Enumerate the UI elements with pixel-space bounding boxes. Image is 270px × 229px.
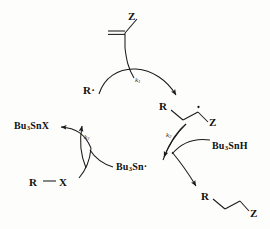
arrow-to-product: [172, 152, 196, 186]
label-tin-radical: Bu3Sn·: [116, 161, 147, 172]
label-rate-constant-k1: k1: [135, 76, 141, 84]
adduct-bond-3: [198, 112, 208, 122]
label-rate-constant-k2: k2: [166, 131, 172, 139]
label-alkyl-radical: R·: [83, 84, 95, 96]
k3-text: k3: [84, 133, 90, 141]
arrow-rx-in: [79, 148, 91, 178]
k1-text: k1: [135, 76, 141, 84]
label-substrate-r: R: [29, 176, 37, 188]
label-product-r: R: [201, 190, 209, 202]
arc-cycle-bottom-left: [90, 150, 113, 167]
label-substrate-x: X: [59, 176, 67, 188]
label-adduct-z: Z: [209, 116, 217, 128]
product-bond-1: [213, 199, 225, 209]
alkene-structure: [108, 19, 137, 48]
adduct-radical-dot: [197, 106, 199, 108]
alkene-feed-arrow: [125, 48, 134, 78]
adduct-bond-2: [183, 112, 198, 120]
diagram-drawing-layer: adduct radical ===== --> down, part of c…: [0, 0, 270, 229]
label-adduct-r: R: [159, 100, 167, 112]
label-tin-hydride-text: Bu3SnH: [212, 140, 248, 151]
adduct-radical-structure: [171, 110, 208, 122]
reaction-mechanism-diagram: adduct radical ===== --> down, part of c…: [0, 0, 270, 229]
label-alkene-z: Z: [128, 10, 136, 22]
label-tin-halide-text: Bu3SnX: [14, 120, 49, 131]
label-tin-halide: Bu3SnX: [14, 120, 49, 131]
label-rate-constant-k3: k3: [84, 133, 90, 141]
label-tin-radical-text: Bu3Sn·: [116, 161, 147, 172]
arrow-bu3snh-in: [172, 140, 210, 154]
arrow-to-tin-radical: [164, 124, 186, 157]
label-tin-hydride: Bu3SnH: [212, 140, 248, 151]
product-bond-2: [225, 201, 240, 209]
adduct-bond-1: [171, 110, 183, 120]
k2-text: k2: [166, 131, 172, 139]
label-product-z: Z: [250, 207, 258, 219]
product-bond-3: [240, 201, 249, 211]
product-structure: [213, 199, 249, 211]
